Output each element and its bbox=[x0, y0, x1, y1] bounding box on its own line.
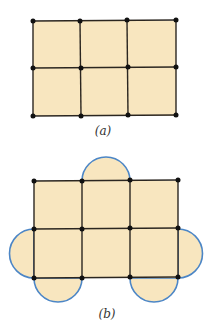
semicircle-bottom-right bbox=[130, 278, 178, 302]
figure-b-label: (b) bbox=[98, 307, 115, 321]
diagram-canvas: (a) bbox=[0, 0, 215, 336]
semicircle-right bbox=[178, 229, 203, 278]
semicircle-left bbox=[9, 229, 34, 278]
semicircle-bottom-left bbox=[34, 278, 82, 302]
figure-a-label: (a) bbox=[95, 124, 112, 138]
figure-a: (a) bbox=[31, 18, 179, 139]
semicircle-top bbox=[82, 157, 130, 181]
figure-b: (b) bbox=[9, 157, 202, 321]
